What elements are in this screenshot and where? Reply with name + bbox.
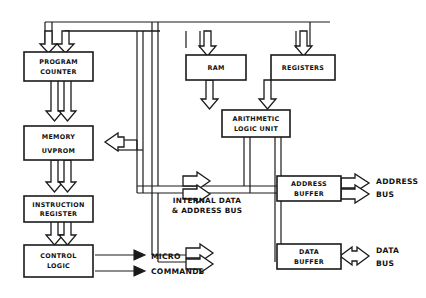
block-address-buffer-line1: ADDRESS <box>291 180 327 188</box>
block-control-logic[interactable]: CONTROL LOGIC <box>24 245 93 277</box>
block-memory-line2: UVPROM <box>42 147 75 155</box>
block-program-counter[interactable]: PROGRAM COUNTER <box>24 52 93 81</box>
block-program-counter-line1: PROGRAM <box>39 58 78 66</box>
arrow-instruction-to-control-b <box>59 221 76 245</box>
internal-bus-label-line2: & ADDRESS BUS <box>172 206 243 215</box>
block-instruction-line1: INSTRUCTION <box>32 201 84 209</box>
arrow-data-buffer-bidirectional <box>340 247 369 265</box>
output-address-bus-line2: BUS <box>376 190 394 199</box>
block-diagram-svg: PROGRAM COUNTER MEMORY UVPROM INSTRUCTIO… <box>0 0 426 298</box>
output-data-bus-line1: DATA <box>376 246 399 255</box>
arrow-bus-to-memory-a <box>105 133 124 151</box>
block-arithmetic-logic-unit[interactable]: ARITHMETIC LOGIC UNIT <box>222 110 290 137</box>
output-micro-commands-line2: COMMANDS <box>151 267 205 276</box>
arrow-memory-to-instruction-b <box>59 160 76 192</box>
block-ram-label: RAM <box>207 64 224 72</box>
block-diagram-canvas: PROGRAM COUNTER MEMORY UVPROM INSTRUCTIO… <box>0 0 426 298</box>
block-data-buffer[interactable]: DATA BUFFER <box>277 244 341 269</box>
block-data-buffer-line2: BUFFER <box>294 258 324 266</box>
arrow-ram-to-alu <box>201 80 218 109</box>
output-data-bus-line2: BUS <box>376 259 394 268</box>
block-control-line1: CONTROL <box>40 252 76 260</box>
arrow-to-ram <box>199 31 216 56</box>
block-program-counter-line2: COUNTER <box>40 68 76 76</box>
block-memory-uvprom[interactable]: MEMORY UVPROM <box>24 126 93 160</box>
block-data-buffer-line1: DATA <box>299 248 319 256</box>
block-instruction-line2: REGISTER <box>40 210 78 218</box>
arrowhead-micro-command-1 <box>134 250 145 260</box>
arrow-instruction-to-control-a <box>46 221 63 245</box>
arrow-pc-to-memory-a <box>46 80 63 121</box>
arrow-memory-to-instruction-a <box>46 160 63 192</box>
arrow-registers-to-alu <box>259 80 276 109</box>
block-registers-label: REGISTERS <box>282 64 325 72</box>
arrowhead-micro-command-2 <box>134 266 145 276</box>
arrow-pc-to-memory-b <box>59 80 76 121</box>
block-address-buffer-line2: BUFFER <box>294 190 324 198</box>
block-control-line2: LOGIC <box>47 262 70 270</box>
arrow-to-program-counter-a <box>40 31 57 53</box>
internal-bus-label-line1: INTERNAL DATA <box>173 196 241 205</box>
block-alu-line1: ARITHMETIC <box>232 115 279 123</box>
output-micro-commands-line1: MICRO <box>151 252 181 261</box>
block-address-buffer[interactable]: ADDRESS BUFFER <box>277 176 341 201</box>
output-address-bus-line1: ADDRESS <box>376 177 418 186</box>
block-memory-line1: MEMORY <box>42 133 76 141</box>
block-alu-line2: LOGIC UNIT <box>234 125 278 133</box>
arrow-to-program-counter-b <box>57 31 74 53</box>
block-instruction-register[interactable]: INSTRUCTION REGISTER <box>24 196 93 222</box>
block-ram[interactable]: RAM <box>186 55 246 80</box>
block-registers[interactable]: REGISTERS <box>271 55 335 80</box>
